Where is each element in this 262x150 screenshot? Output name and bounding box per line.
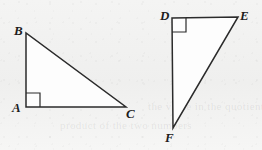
vertex-label-d: D <box>160 9 169 22</box>
vertex-label-f: F <box>165 131 174 144</box>
vertex-label-e: E <box>240 9 249 22</box>
triangle-def <box>172 17 238 128</box>
triangles-drawing <box>0 0 262 150</box>
vertex-label-a: A <box>12 101 21 114</box>
vertex-label-c: C <box>126 107 135 120</box>
triangle-abc <box>26 33 126 107</box>
geometry-figure: the value in the quotient is product of … <box>0 0 262 150</box>
vertex-label-b: B <box>14 24 23 37</box>
